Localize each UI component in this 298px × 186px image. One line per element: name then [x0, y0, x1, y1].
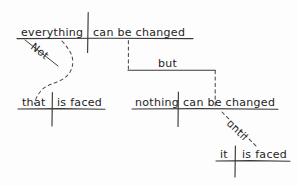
sentence-diagram-canvas: everything can be changed Not that is fa… — [0, 0, 298, 186]
label-it: it — [220, 148, 228, 161]
diagram-svg: everything can be changed Not that is fa… — [0, 0, 298, 186]
label-can-be-changed-bottom: can be changed — [183, 96, 275, 109]
label-is-faced-bottom: is faced — [242, 148, 287, 161]
label-nothing: nothing — [135, 96, 179, 109]
label-is-faced-left: is faced — [57, 96, 102, 109]
label-can-be-changed-top: can be changed — [93, 26, 185, 39]
divider-main-top — [88, 13, 89, 53]
label-that: that — [22, 96, 46, 109]
label-everything: everything — [21, 26, 83, 39]
label-until: until — [225, 117, 251, 143]
label-but: but — [158, 57, 178, 70]
